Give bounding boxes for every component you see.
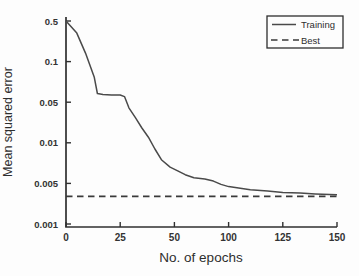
legend-training-label: Training: [301, 19, 335, 30]
x-axis-title: No. of epochs: [159, 250, 243, 265]
plot-area: 0.50.10.050.010.0050.00102550100125150: [34, 16, 346, 244]
legend: Training Best: [267, 16, 343, 48]
x-tick-label: 100: [220, 232, 237, 243]
x-tick-label: 150: [329, 232, 346, 243]
y-tick-label: 0.5: [45, 16, 59, 27]
x-tick-label: 125: [274, 232, 291, 243]
legend-best-label: Best: [301, 35, 320, 46]
y-tick-label: 0.005: [34, 178, 58, 189]
x-tick-label: 25: [115, 232, 127, 243]
x-tick-label: 50: [169, 232, 181, 243]
y-tick-label: 0.001: [34, 219, 58, 230]
y-tick-label: 0.05: [40, 97, 59, 108]
mse-vs-epochs-chart: 0.50.10.050.010.0050.00102550100125150 N…: [0, 0, 359, 276]
y-axis-title: Mean squared error: [1, 67, 15, 177]
training-error-figure: 0.50.10.050.010.0050.00102550100125150 N…: [0, 0, 359, 276]
y-tick-label: 0.01: [40, 137, 59, 148]
y-tick-label: 0.1: [45, 56, 59, 67]
x-tick-label: 0: [63, 232, 69, 243]
